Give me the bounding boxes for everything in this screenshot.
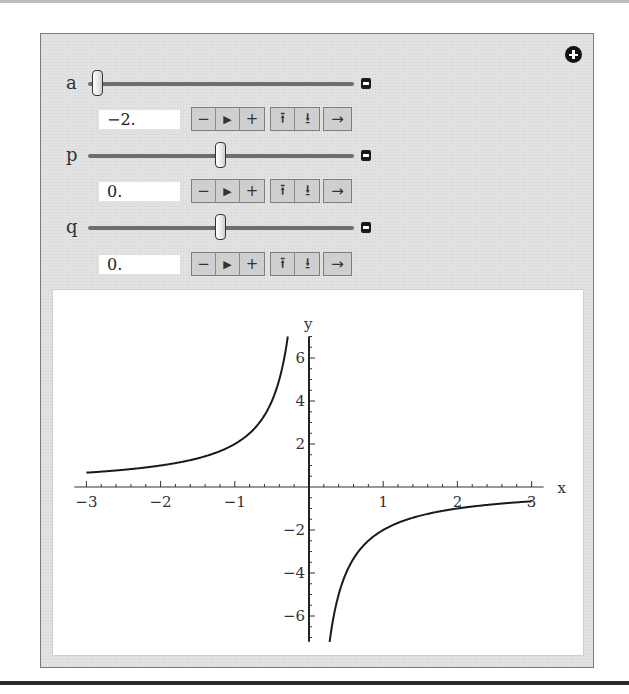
bottom-rule [0,681,629,685]
x-tick-label: 1 [378,493,388,511]
x-tick-label: −1 [224,493,246,511]
y-tick-label: −4 [283,564,305,582]
x-axis-label: x [558,479,567,497]
y-tick-label: −6 [283,607,305,625]
y-tick-label: −2 [283,521,305,539]
y-tick-label: 6 [295,349,305,367]
function-curve [86,337,287,473]
y-tick-label: 4 [295,392,305,410]
chart-svg: xy−3−2−1123642−2−4−6 [1,1,629,694]
x-tick-label: −3 [75,493,97,511]
plot-area: xy−3−2−1123642−2−4−6 [52,289,584,656]
axes [74,337,543,642]
function-curve [330,501,532,641]
y-axis-label: y [303,315,313,333]
x-tick-label: −2 [150,493,172,511]
y-tick-label: 2 [295,435,305,453]
tick-labels: xy−3−2−1123642−2−4−6 [75,315,566,626]
